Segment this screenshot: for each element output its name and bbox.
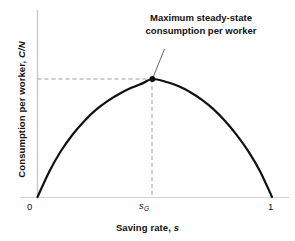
y-axis-label-symbol: C/N — [16, 41, 27, 58]
x-axis-label-symbol: s — [174, 222, 179, 233]
callout-line-1: Maximum steady-state — [108, 12, 294, 25]
consumption-curve — [38, 79, 273, 197]
golden-rule-point-marker — [150, 76, 156, 82]
callout-line-2: consumption per worker — [108, 25, 294, 38]
x-tick-sg-subscript: G — [144, 205, 149, 212]
chart-figure: Maximum steady-state consumption per wor… — [0, 0, 295, 241]
y-axis-label-text: Consumption per worker, — [16, 61, 27, 178]
x-axis-label: Saving rate, s — [0, 222, 295, 233]
callout-leader-line — [153, 49, 165, 78]
max-consumption-callout: Maximum steady-state consumption per wor… — [108, 12, 294, 37]
x-axis-label-text: Saving rate, — [116, 222, 171, 233]
x-tick-label-0: 0 — [27, 201, 32, 212]
x-tick-label-sg: sG — [139, 200, 149, 211]
y-axis-label: Consumption per worker, C/N — [16, 35, 27, 185]
x-tick-label-1: 1 — [268, 201, 273, 212]
